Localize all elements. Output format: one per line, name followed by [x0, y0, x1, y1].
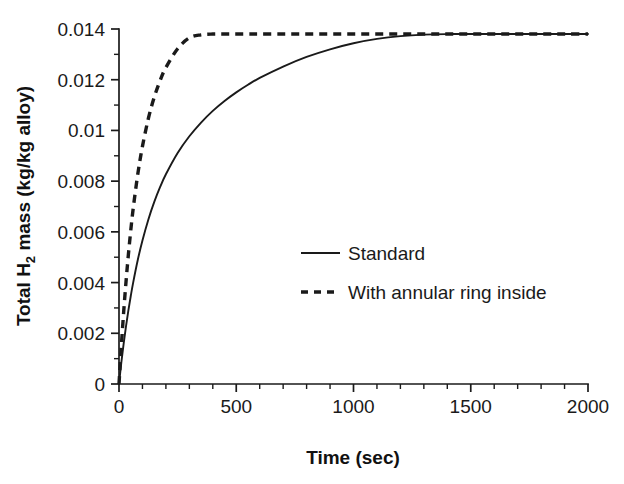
y-tick-label: 0.008 [57, 171, 105, 192]
legend-label-with-annular-ring-inside: With annular ring inside [348, 282, 547, 303]
y-tick-label: 0.014 [57, 19, 105, 40]
y-tick-label: 0.01 [68, 120, 105, 141]
y-tick-label: 0.002 [57, 323, 105, 344]
x-tick-label: 500 [220, 396, 252, 417]
x-tick-label: 2000 [567, 396, 609, 417]
y-tick-label: 0.012 [57, 70, 105, 91]
y-tick-label: 0 [94, 374, 105, 395]
legend-label-standard: Standard [348, 243, 425, 264]
chart-plot-area: 00.0020.0040.0060.0080.010.0120.014 0500… [0, 0, 624, 484]
x-axis-title: Time (sec) [306, 447, 400, 468]
x-tick-label: 1500 [450, 396, 492, 417]
y-tick-label: 0.006 [57, 222, 105, 243]
chart-figure: 00.0020.0040.0060.0080.010.0120.014 0500… [0, 0, 624, 484]
x-tick-label: 1000 [332, 396, 374, 417]
y-tick-label: 0.004 [57, 273, 105, 294]
x-tick-label: 0 [114, 396, 125, 417]
